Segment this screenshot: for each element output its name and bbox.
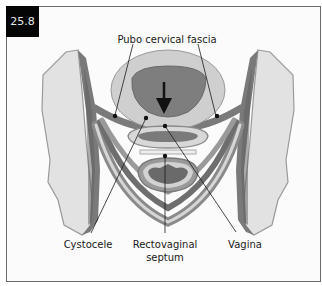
label-rectovaginal-line2: septum (123, 251, 207, 264)
left-pelvic-bone (42, 50, 100, 235)
label-rectovaginal-line1: Rectovaginal (123, 238, 207, 251)
figure-number-badge: 25.8 (6, 6, 39, 37)
right-pelvic-bone (236, 50, 294, 235)
figure-number: 25.8 (10, 15, 35, 28)
rectovaginal-septum (140, 150, 196, 154)
label-pubo-cervical-fascia: Pubo cervical fascia (117, 33, 217, 46)
rectum (138, 158, 198, 192)
label-rectovaginal-septum: Rectovaginal septum (123, 238, 207, 264)
label-cystocele: Cystocele (53, 238, 123, 251)
vagina (128, 126, 208, 148)
label-vagina: Vagina (215, 238, 275, 251)
